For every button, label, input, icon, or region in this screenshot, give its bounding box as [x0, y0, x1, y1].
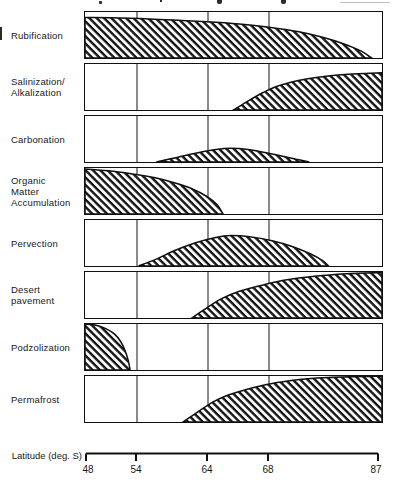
process-label-line: Alkalization [11, 87, 80, 98]
cropped-text-fragment [281, 0, 286, 4]
process-label-line: pavement [11, 295, 80, 306]
process-label-line: Organic [11, 175, 80, 186]
process-panel [84, 167, 383, 215]
process-panel-svg [85, 376, 382, 422]
process-panel [84, 271, 383, 319]
latitude-axis: 48 54 64 68 87 [84, 450, 385, 480]
process-panel-svg [85, 324, 382, 370]
axis-tick-label: 87 [370, 464, 382, 475]
process-panel-svg [85, 116, 382, 162]
process-label: Permafrost [0, 394, 84, 405]
process-panel [84, 219, 383, 267]
process-panel [84, 375, 383, 423]
intensity-area [85, 324, 130, 370]
process-label: Desertpavement [0, 284, 84, 306]
intensity-area [234, 73, 383, 110]
process-label-line: Podzolization [11, 342, 80, 353]
process-label: Carbonation [0, 134, 84, 145]
process-row: Desertpavement [0, 272, 393, 318]
process-label-line: Permafrost [11, 394, 80, 405]
process-panel [84, 115, 383, 163]
process-panel-svg [85, 12, 382, 58]
process-row: Salinization/Alkalization [0, 64, 393, 110]
process-panel-svg [85, 64, 382, 110]
axis-label: Latitude (deg. S) [0, 450, 84, 462]
process-row: Rubification [0, 12, 393, 58]
axis-tick-label: 64 [201, 464, 213, 475]
process-panel-svg [85, 168, 382, 214]
process-label-line: Carbonation [11, 134, 80, 145]
process-row: Podzolization [0, 324, 393, 370]
process-row: Carbonation [0, 116, 393, 162]
process-label: Pervection [0, 238, 84, 249]
cropped-text-fragment [217, 0, 222, 4]
process-label-line: Matter [11, 186, 80, 197]
axis-tick-label: 54 [130, 464, 142, 475]
process-row: Permafrost [0, 376, 393, 422]
process-panel [84, 11, 383, 59]
intensity-area [139, 236, 329, 266]
process-panel-svg [85, 220, 382, 266]
process-label-line: Accumulation [11, 197, 80, 208]
process-label: Rubification [0, 30, 84, 41]
axis-tick-label: 48 [82, 464, 94, 475]
intensity-area [192, 273, 382, 319]
intensity-area [85, 18, 372, 59]
process-label: Salinization/Alkalization [0, 76, 84, 98]
cropped-text-fragment [340, 2, 390, 3]
intensity-area [183, 376, 382, 422]
process-label-line: Pervection [11, 238, 80, 249]
intensity-area [156, 148, 309, 162]
process-label: OrganicMatterAccumulation [0, 175, 84, 208]
cropped-text-fragment [160, 0, 162, 2]
process-panel [84, 323, 383, 371]
process-row: OrganicMatterAccumulation [0, 168, 393, 214]
process-row: Pervection [0, 220, 393, 266]
process-label-line: Salinization/ [11, 76, 80, 87]
process-label-line: Desert [11, 284, 80, 295]
process-label: Podzolization [0, 342, 84, 353]
cropped-text-fragment [99, 1, 102, 4]
axis-tick-label: 68 [262, 464, 274, 475]
latitude-axis-row: Latitude (deg. S) 48 54 64 68 87 [0, 450, 393, 480]
process-panel-svg [85, 272, 382, 318]
intensity-area [85, 169, 223, 214]
process-label-line: Rubification [11, 30, 80, 41]
process-panels: RubificationSalinization/AlkalizationCar… [0, 12, 393, 428]
process-panel [84, 63, 383, 111]
